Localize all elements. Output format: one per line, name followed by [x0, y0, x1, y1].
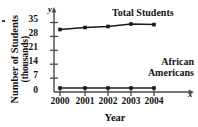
data-point-total-2001: [83, 26, 87, 30]
data-point-afam-2002: [106, 86, 110, 90]
x-axis-arrow: [189, 90, 194, 95]
y-tick-label-28: 28: [22, 29, 38, 39]
y-tick-label-0: 0: [22, 86, 38, 96]
data-point-afam-2003: [129, 86, 133, 90]
series-label-african-americans-line2: Americans: [120, 68, 194, 79]
y-tick-label-35: 35: [22, 15, 38, 25]
x-tick-label-2000: 2000: [46, 97, 74, 107]
data-point-afam-2000: [58, 86, 62, 90]
data-point-total-2000: [58, 28, 62, 32]
data-point-total-2004: [152, 23, 156, 27]
y-axis-title-line1: Number of Students: [10, 15, 21, 103]
series-label-total-students: Total Students: [112, 8, 174, 19]
y-tick-label-7: 7: [22, 71, 38, 81]
y-tick-label-14: 14: [22, 57, 38, 67]
x-tick-label-2004: 2004: [140, 97, 168, 107]
chart-screenshot: Number of Students (thousands) y x 35 28…: [0, 0, 198, 127]
series-label-african-americans-line1: African: [120, 57, 194, 68]
data-point-afam-2004: [152, 86, 156, 90]
y-tick-label-21: 21: [22, 43, 38, 53]
data-point-total-2002: [106, 25, 110, 29]
chart-svg: [40, 4, 198, 104]
data-point-total-2003: [129, 22, 133, 26]
plot-area: [40, 4, 198, 104]
data-point-afam-2001: [83, 86, 87, 90]
series-label-african-americans: African Americans: [120, 57, 194, 78]
x-axis-title: Year: [50, 112, 180, 123]
y-axis-arrow: [52, 7, 57, 12]
